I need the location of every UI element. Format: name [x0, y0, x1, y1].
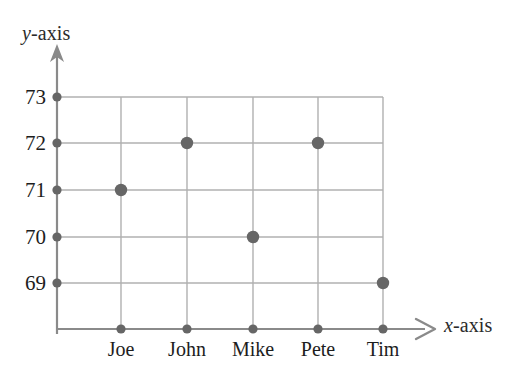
- x-tick-dot-tim: [378, 324, 387, 333]
- y-axis-title: y-axis: [22, 22, 70, 45]
- chart-page: y-axis x-axis 73 72 71 70 69 Joe John Mi…: [0, 0, 523, 383]
- x-tick-dot-joe: [116, 324, 125, 333]
- y-tick-dot-71: [52, 185, 61, 194]
- x-tick-dot-mike: [248, 324, 257, 333]
- y-tick-dot-73: [52, 92, 61, 101]
- x-tick-label-tim: Tim: [367, 338, 400, 361]
- data-point-tim[interactable]: [377, 277, 389, 289]
- x-tick-dot-pete: [313, 324, 322, 333]
- x-axis: [56, 319, 435, 339]
- x-tick-dot-john: [182, 324, 191, 333]
- x-axis-variable: x: [444, 314, 453, 336]
- x-tick-label-mike: Mike: [232, 338, 274, 361]
- data-point-pete[interactable]: [312, 137, 324, 149]
- y-tick-label-72: 72: [4, 131, 46, 156]
- x-tick-label-john: John: [168, 338, 206, 361]
- data-points: [115, 137, 389, 289]
- y-tick-dot-72: [52, 138, 61, 147]
- data-point-mike[interactable]: [247, 231, 259, 243]
- vertical-gridlines: [121, 97, 383, 329]
- y-tick-label-71: 71: [4, 178, 46, 203]
- y-tick-dot-70: [52, 232, 61, 241]
- x-axis-suffix: -axis: [453, 314, 492, 336]
- x-tick-label-pete: Pete: [301, 338, 335, 361]
- x-axis-title: x-axis: [444, 314, 492, 337]
- y-tick-label-69: 69: [4, 271, 46, 296]
- horizontal-gridlines: [57, 97, 383, 283]
- x-tick-label-joe: Joe: [108, 338, 135, 361]
- y-tick-label-70: 70: [4, 225, 46, 250]
- data-point-john[interactable]: [181, 137, 193, 149]
- y-tick-dot-69: [52, 278, 61, 287]
- data-point-joe[interactable]: [115, 184, 127, 196]
- y-axis-suffix: -axis: [31, 22, 70, 44]
- y-axis-variable: y: [22, 22, 31, 44]
- y-tick-label-73: 73: [4, 85, 46, 110]
